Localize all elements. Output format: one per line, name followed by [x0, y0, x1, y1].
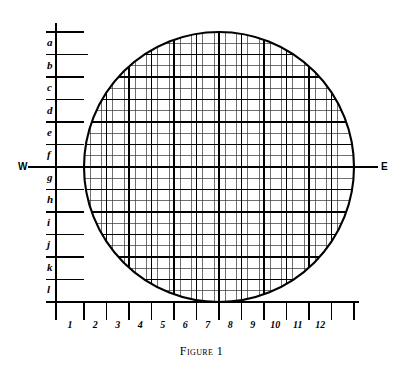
circle-grid-diagram — [0, 0, 403, 370]
col-label-2: 2 — [88, 320, 102, 330]
col-label-8: 8 — [223, 320, 237, 330]
col-label-6: 6 — [178, 320, 192, 330]
row-label-c: c — [47, 82, 52, 93]
col-label-3: 3 — [111, 320, 125, 330]
col-label-12: 12 — [313, 320, 327, 330]
col-label-10: 10 — [268, 320, 282, 330]
row-label-g: g — [47, 172, 53, 183]
row-label-h: h — [47, 194, 53, 205]
row-label-a: a — [47, 37, 53, 48]
row-label-i: i — [47, 217, 50, 228]
col-label-4: 4 — [133, 320, 147, 330]
col-label-1: 1 — [63, 320, 77, 330]
col-label-5: 5 — [156, 320, 170, 330]
figure-caption: Figure 1 — [0, 344, 403, 359]
row-label-e: e — [47, 127, 52, 138]
col-label-9: 9 — [246, 320, 260, 330]
row-label-k: k — [47, 262, 53, 273]
row-label-d: d — [47, 105, 53, 116]
col-label-7: 7 — [201, 320, 215, 330]
compass-west-label: W — [18, 162, 27, 172]
column-tick-marks — [56, 302, 354, 320]
row-label-f: f — [47, 149, 51, 160]
row-label-l: l — [47, 284, 50, 295]
col-label-11: 11 — [291, 320, 305, 330]
row-label-j: j — [47, 239, 50, 250]
figure-container: W E a b c d e f g h i j k l 1 2 3 4 5 6 … — [0, 0, 403, 370]
major-grid-inner — [79, 32, 359, 302]
compass-east-label: E — [381, 162, 388, 172]
row-label-b: b — [47, 60, 53, 71]
